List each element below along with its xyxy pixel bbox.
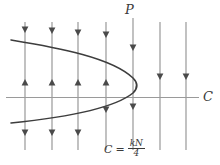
parabola-curve: [11, 40, 137, 123]
flow-arrow-up: [22, 79, 29, 86]
flow-arrow-up: [75, 79, 82, 86]
phase-plane-figure: P C C = kN 4: [0, 0, 220, 165]
flow-arrow-down: [22, 130, 29, 137]
vertical-axis-label: P: [125, 3, 134, 16]
flow-arrow-down: [103, 32, 110, 39]
flow-arrow-down: [157, 74, 164, 81]
vertex-equation-equals: =: [115, 144, 124, 155]
flow-arrow-down: [49, 130, 56, 137]
flow-arrow-down: [75, 30, 82, 37]
horizontal-axis-label: C: [203, 90, 213, 103]
vertex-equation-lhs: C: [104, 144, 112, 155]
flow-arrow-down: [183, 74, 190, 81]
vertex-equation-fraction: kN 4: [128, 139, 145, 159]
flow-arrow-down: [49, 28, 56, 35]
flow-arrow-down: [130, 104, 137, 111]
fraction-numerator: kN: [128, 139, 145, 148]
vertex-equation: C = kN 4: [104, 140, 145, 160]
fraction-denominator: 4: [131, 149, 141, 158]
flow-arrow-down: [22, 27, 29, 34]
flow-arrow-down: [130, 45, 137, 52]
parabola-group: [11, 40, 137, 123]
flow-arrow-down: [103, 107, 110, 114]
flow-arrow-up: [103, 79, 110, 86]
flow-arrow-down: [75, 130, 82, 137]
flow-arrow-up: [49, 79, 56, 86]
